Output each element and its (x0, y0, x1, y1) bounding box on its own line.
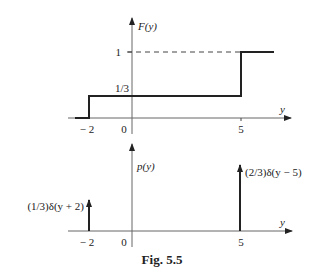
cdf-step-curve (75, 52, 274, 118)
pdf-x-axis-label: y (279, 216, 285, 228)
cdf-tick-label-one: 1 (116, 46, 122, 58)
cdf-plot: F(y) 1 1/3 y − 2 0 5 (68, 18, 291, 135)
cdf-x-axis-label: y (279, 103, 285, 115)
pdf-tick-label-five: 5 (238, 236, 244, 248)
figure-caption: Fig. 5.5 (142, 252, 183, 267)
pdf-delta-right-label: (2/3)δ(y − 5) (245, 166, 302, 179)
cdf-tick-label-five: 5 (238, 123, 244, 135)
cdf-tick-label-zero: 0 (121, 123, 127, 135)
cdf-y-axis-label: F(y) (137, 20, 157, 33)
pdf-tick-label-neg2: − 2 (80, 236, 94, 248)
cdf-tick-label-neg2: − 2 (80, 123, 94, 135)
pdf-plot: p(y) (1/3)δ(y + 2) (2/3)δ(y − 5) y − 2 0… (27, 144, 302, 248)
figure-canvas: F(y) 1 1/3 y − 2 0 5 p(y) (1/3)δ(y + 2) … (0, 0, 324, 272)
pdf-y-axis-label: p(y) (136, 160, 155, 173)
cdf-tick-label-third: 1/3 (115, 82, 130, 94)
pdf-delta-left-label: (1/3)δ(y + 2) (27, 200, 84, 213)
pdf-tick-label-zero: 0 (121, 236, 127, 248)
